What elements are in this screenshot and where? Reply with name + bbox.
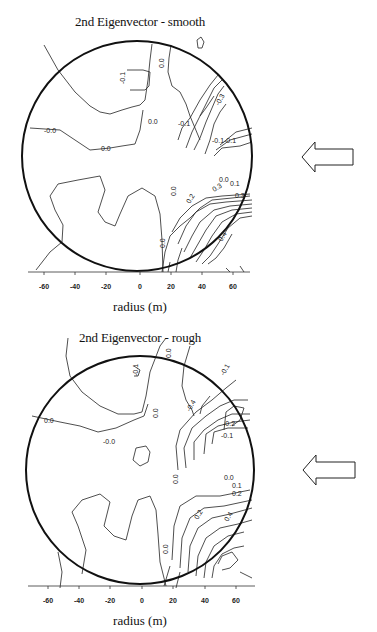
contour-plot: 0.0 -0.1 -0.0 0.0 0.0 -0.1 -0.2 -0.1 -0.… xyxy=(0,316,377,632)
x-axis: -60 -40 -20 0 20 40 60 xyxy=(28,586,255,604)
svg-text:-0.2: -0.2 xyxy=(223,420,235,427)
svg-text:-0.1: -0.1 xyxy=(219,362,231,376)
svg-text:0.2: 0.2 xyxy=(185,192,196,204)
domain-circle xyxy=(26,356,254,584)
svg-text:0.0: 0.0 xyxy=(172,474,179,484)
svg-text:0.3: 0.3 xyxy=(235,192,245,199)
svg-text:-0.1: -0.1 xyxy=(132,364,139,376)
x-tick-label: 20 xyxy=(169,597,177,604)
left-arrow-icon xyxy=(303,455,355,485)
x-tick-label: -40 xyxy=(70,283,80,290)
contour-labels: -0.1 0.0 -0.0 0.0 0.0 -0.1 -0.1 -0.3 -0.… xyxy=(44,58,245,248)
contour-plot: -0.1 0.0 -0.0 0.0 0.0 -0.1 -0.1 -0.3 -0.… xyxy=(0,0,377,316)
svg-text:0.0: 0.0 xyxy=(159,238,166,248)
svg-text:0.0: 0.0 xyxy=(148,118,158,125)
svg-text:0.2: 0.2 xyxy=(193,508,204,520)
svg-text:-0.0: -0.0 xyxy=(44,127,56,134)
x-axis-label: radius (m) xyxy=(0,299,280,315)
svg-text:0.1: 0.1 xyxy=(230,180,240,187)
x-tick-label: -60 xyxy=(39,283,49,290)
svg-text:-0.1: -0.1 xyxy=(224,137,236,144)
x-tick-label: -20 xyxy=(105,597,115,604)
panel-smooth: 2nd Eigenvector - smooth xyxy=(0,0,377,316)
svg-text:0.4: 0.4 xyxy=(223,510,234,522)
panel-rough: 2nd Eigenvector - rough xyxy=(0,316,377,632)
svg-text:0.0: 0.0 xyxy=(44,417,54,424)
svg-text:0.2: 0.2 xyxy=(232,490,242,497)
contour-labels: 0.0 -0.1 -0.0 0.0 0.0 -0.1 -0.2 -0.1 -0.… xyxy=(44,348,242,554)
svg-text:-0.1: -0.1 xyxy=(221,432,233,439)
svg-text:0.0: 0.0 xyxy=(219,176,229,183)
x-tick-label: 40 xyxy=(198,283,206,290)
svg-text:-0.1: -0.1 xyxy=(212,137,224,144)
left-arrow-icon xyxy=(302,142,353,172)
x-tick-label: 0 xyxy=(140,597,144,604)
x-tick-label: 60 xyxy=(229,283,237,290)
x-tick-label: 0 xyxy=(138,283,142,290)
x-tick-label: 60 xyxy=(232,597,240,604)
x-axis-label: radius (m) xyxy=(0,613,280,629)
svg-text:0.0: 0.0 xyxy=(158,58,165,68)
svg-text:0.4: 0.4 xyxy=(217,230,228,242)
svg-text:0.0: 0.0 xyxy=(165,348,172,358)
svg-text:-0.0: -0.0 xyxy=(103,438,115,445)
svg-text:0.0: 0.0 xyxy=(162,544,169,554)
svg-text:0.0: 0.0 xyxy=(152,408,159,418)
svg-text:0.0: 0.0 xyxy=(224,474,234,481)
x-tick-label: 40 xyxy=(201,597,209,604)
svg-text:0.3: 0.3 xyxy=(211,182,223,193)
svg-text:0.0: 0.0 xyxy=(101,145,111,152)
x-axis: -60 -40 -20 0 20 40 60 xyxy=(28,272,250,290)
svg-text:0.0: 0.0 xyxy=(170,186,177,196)
svg-text:-0.1: -0.1 xyxy=(178,120,190,127)
x-tick-label: -60 xyxy=(43,597,53,604)
x-tick-label: -20 xyxy=(101,283,111,290)
x-tick-label: 20 xyxy=(167,283,175,290)
x-tick-label: -40 xyxy=(74,597,84,604)
svg-text:-0.1: -0.1 xyxy=(119,72,126,84)
svg-text:0.1: 0.1 xyxy=(232,482,242,489)
svg-text:-0.3: -0.3 xyxy=(214,92,226,106)
